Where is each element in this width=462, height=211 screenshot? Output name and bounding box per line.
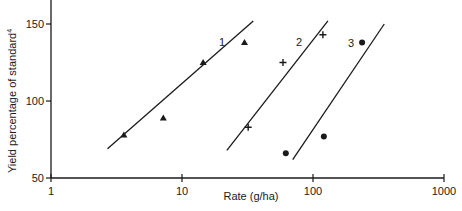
x-tick-label: 1000: [432, 185, 456, 197]
fit-line-1: [108, 21, 254, 149]
x-tick-label: 1: [48, 185, 54, 197]
chart: 50100150 1101001000 123 Rate (g/ha) Yiel…: [0, 0, 462, 211]
triangle-marker-icon: [241, 39, 248, 45]
x-tick-label: 10: [176, 185, 188, 197]
y-axis-title: Yield percentage of standard4: [6, 29, 18, 173]
series-label-1: 1: [219, 36, 225, 48]
series-label-3: 3: [348, 37, 354, 49]
y-tick-label: 50: [32, 172, 44, 184]
dot-marker-icon: [359, 39, 365, 45]
series-label-2: 2: [296, 36, 302, 48]
x-tick-label: 100: [304, 185, 322, 197]
dot-marker-icon: [283, 150, 289, 156]
dot-marker-icon: [321, 133, 327, 139]
y-tick-label: 100: [26, 95, 44, 107]
triangle-marker-icon: [160, 114, 167, 120]
y-tick-label: 150: [26, 18, 44, 30]
plus-marker-icon: [245, 124, 252, 131]
plus-marker-icon: [319, 31, 326, 38]
y-ticks: 50100150: [26, 18, 51, 184]
series-labels: 123: [219, 36, 354, 49]
y-axis-title-superscript: 4: [6, 29, 13, 33]
x-axis-title: Rate (g/ha): [223, 190, 278, 202]
fit-line-3: [293, 24, 385, 160]
plus-marker-icon: [279, 59, 286, 66]
data-points: [120, 31, 365, 156]
